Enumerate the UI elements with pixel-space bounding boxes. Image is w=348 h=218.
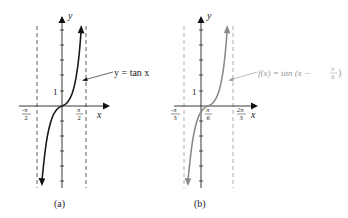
x-tick-right-b: 2π 3: [237, 106, 246, 121]
svg-text:6: 6: [332, 74, 335, 80]
svg-text:π: π: [206, 106, 210, 113]
curve-arrow-top-b: [224, 25, 231, 34]
y-tick-label-b: 1: [192, 87, 197, 97]
svg-text:2π: 2π: [237, 106, 244, 113]
x-tick-right-a: π 2: [76, 106, 83, 121]
svg-text:6: 6: [207, 114, 211, 121]
y-axis-label-b: y: [206, 10, 212, 21]
curve-arrow-bottom-b: [185, 178, 192, 186]
label-pointer-b: [230, 72, 257, 80]
svg-text:f(x) = tan (x −: f(x) = tan (x −: [258, 68, 310, 78]
svg-text:π: π: [331, 66, 335, 72]
function-label-b: f(x) = tan (x − π 6 ): [258, 66, 341, 80]
curve-arrow-top-a: [78, 25, 85, 34]
panel-b: y x 1 -π 3 π 6 2π 3 f(x) = tan (x − π 6 …: [171, 10, 341, 210]
svg-text:2: 2: [25, 114, 28, 121]
x-axis-label-a: x: [96, 109, 102, 120]
svg-text:-π: -π: [22, 106, 28, 113]
x-axis-label-b: x: [250, 109, 256, 120]
y-axis-arrow-b: [198, 16, 205, 23]
svg-text:3: 3: [240, 114, 243, 121]
y-axis-arrow-a: [59, 16, 66, 23]
y-tick-label-a: 1: [53, 87, 58, 97]
caption-a: (a): [54, 198, 65, 210]
svg-text:2: 2: [78, 114, 81, 121]
curve-arrow-bottom-a: [39, 178, 46, 186]
svg-text:-π: -π: [171, 106, 177, 113]
panel-a: y x 1 -π 2 π 2 y = tan x (a): [19, 10, 149, 210]
y-axis-label-a: y: [67, 10, 73, 21]
label-pointer-a: [84, 72, 113, 80]
x-tick-left-a: -π 2: [22, 106, 31, 121]
x-tick-left-b: -π 3: [171, 106, 180, 121]
figure-canvas: y x 1 -π 2 π 2 y = tan x (a): [0, 0, 348, 218]
svg-text:): ): [338, 67, 341, 79]
svg-text:π: π: [77, 106, 81, 113]
svg-text:3: 3: [174, 114, 177, 121]
label-pointer-head-b: [228, 78, 234, 82]
caption-b: (b): [194, 198, 206, 210]
function-label-a: y = tan x: [114, 67, 149, 78]
x-tick-mid-b: π 6: [205, 106, 212, 121]
label-pointer-head-a: [82, 78, 88, 82]
x-axis-arrow-a: [103, 103, 110, 110]
